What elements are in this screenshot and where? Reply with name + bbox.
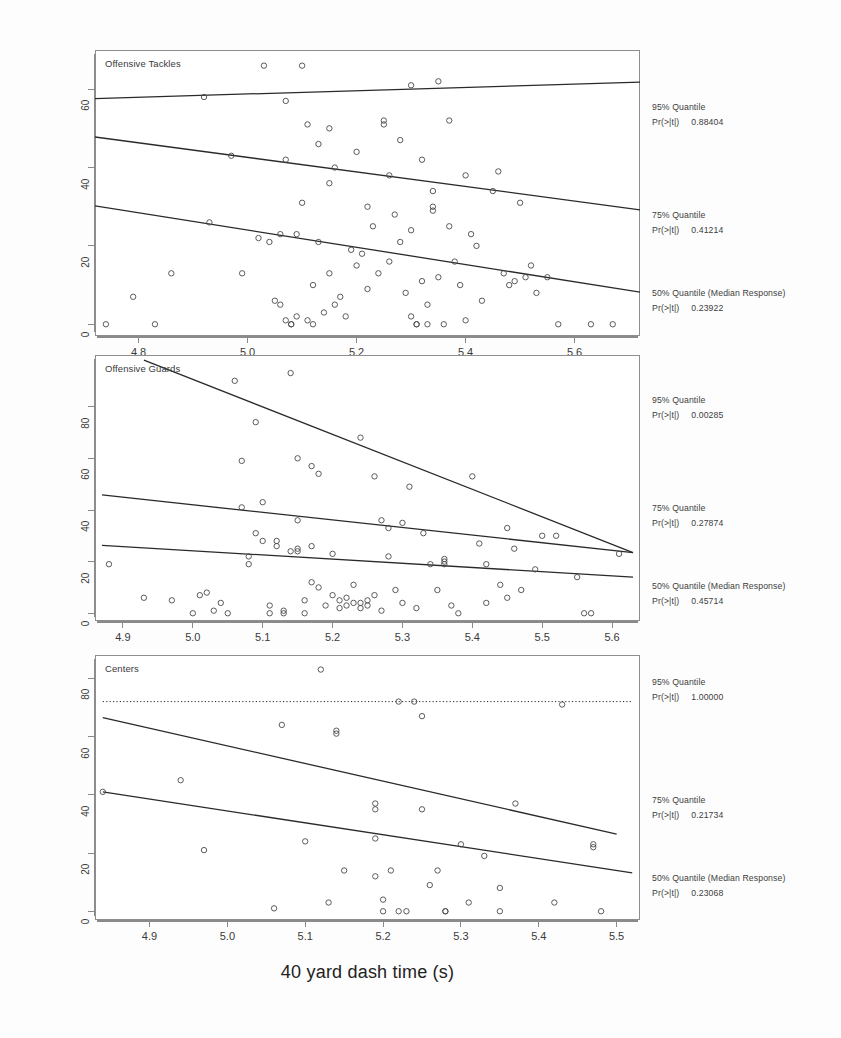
y-tick-label: 40 bbox=[81, 805, 91, 816]
scatter-point bbox=[327, 126, 332, 131]
scatter-point bbox=[344, 595, 349, 600]
scatter-point bbox=[260, 500, 265, 505]
scatter-point bbox=[388, 868, 393, 873]
scatter-point bbox=[425, 322, 430, 327]
quantile-annotation: 95% QuantilePr(>|t|)1.00000 bbox=[652, 677, 837, 702]
scatter-point bbox=[404, 909, 409, 914]
scatter-point bbox=[365, 204, 370, 209]
scatter-point bbox=[267, 611, 272, 616]
p-value-label: Pr(>|t|) bbox=[652, 518, 679, 528]
p-value-row: Pr(>|t|)0.88404 bbox=[652, 117, 837, 127]
scatter-point bbox=[272, 298, 277, 303]
scatter-point bbox=[279, 722, 284, 727]
y-tick-label: 60 bbox=[81, 100, 91, 111]
x-tick-mark bbox=[542, 621, 543, 628]
x-tick-mark bbox=[402, 621, 403, 628]
y-tick-label: 40 bbox=[81, 521, 91, 532]
scatter-point bbox=[365, 598, 370, 603]
x-tick-label: 5.5 bbox=[609, 930, 624, 942]
y-tick-label: 40 bbox=[81, 178, 91, 189]
p-value-label: Pr(>|t|) bbox=[652, 692, 679, 702]
scatter-point bbox=[457, 282, 462, 287]
scatter-point bbox=[283, 157, 288, 162]
scatter-point bbox=[372, 592, 377, 597]
quantile-label: 95% Quantile bbox=[652, 677, 837, 687]
y-tick-label: 20 bbox=[81, 256, 91, 267]
scatter-point bbox=[419, 278, 424, 283]
quantile-label: 75% Quantile bbox=[652, 795, 837, 805]
scatter-point bbox=[373, 874, 378, 879]
scatter-point bbox=[427, 882, 432, 887]
p-value-row: Pr(>|t|)0.00285 bbox=[652, 410, 837, 420]
x-tick-mark bbox=[538, 920, 539, 927]
scatter-point bbox=[253, 530, 258, 535]
y-tick-label: 60 bbox=[81, 469, 91, 480]
x-tick-label: 5.2 bbox=[325, 631, 340, 643]
panel-title: Offensive Tackles bbox=[105, 58, 181, 69]
x-tick-label: 5.0 bbox=[185, 631, 200, 643]
scatter-plot-canvas bbox=[95, 655, 640, 920]
scatter-point bbox=[278, 231, 283, 236]
y-tick-mark bbox=[88, 324, 95, 325]
scatter-point bbox=[498, 582, 503, 587]
quantile-annotation: 50% Quantile (Median Response)Pr(>|t|)0.… bbox=[652, 581, 837, 606]
scatter-point bbox=[338, 294, 343, 299]
scatter-point bbox=[435, 868, 440, 873]
quantile-fit-line bbox=[103, 718, 617, 834]
quantile-fit-line bbox=[95, 206, 640, 292]
scatter-point bbox=[474, 243, 479, 248]
scatter-point bbox=[327, 181, 332, 186]
scatter-point bbox=[337, 605, 342, 610]
scatter-point bbox=[359, 251, 364, 256]
scatter-point bbox=[463, 318, 468, 323]
scatter-point bbox=[201, 847, 206, 852]
x-tick-label: 5.3 bbox=[395, 631, 410, 643]
quantile-label: 50% Quantile (Median Response) bbox=[652, 288, 837, 298]
scatter-point bbox=[283, 318, 288, 323]
scatter-point bbox=[152, 322, 157, 327]
panel-title: Centers bbox=[105, 663, 139, 674]
scatter-point bbox=[428, 561, 433, 566]
x-tick-mark bbox=[332, 621, 333, 628]
x-tick-mark bbox=[383, 920, 384, 927]
scatter-point bbox=[419, 713, 424, 718]
x-tick-mark bbox=[122, 621, 123, 628]
quantile-label: 75% Quantile bbox=[652, 503, 837, 513]
p-value: 0.23068 bbox=[691, 888, 723, 898]
p-value: 0.41214 bbox=[691, 225, 723, 235]
x-tick-label: 5.5 bbox=[535, 631, 550, 643]
quantile-label: 50% Quantile (Median Response) bbox=[652, 873, 837, 883]
x-tick-mark bbox=[612, 621, 613, 628]
scatter-point bbox=[239, 271, 244, 276]
y-tick-mark bbox=[88, 853, 95, 854]
figure-root: Career Approximate Value Offensive Tackl… bbox=[0, 0, 841, 1038]
scatter-point bbox=[330, 592, 335, 597]
scatter-point bbox=[309, 463, 314, 468]
quantile-fit-line bbox=[95, 137, 640, 210]
scatter-point bbox=[610, 322, 615, 327]
scatter-point bbox=[466, 900, 471, 905]
scatter-point bbox=[468, 231, 473, 236]
scatter-point bbox=[430, 208, 435, 213]
p-value: 0.88404 bbox=[691, 117, 723, 127]
annotations-offensive-tackles: 95% QuantilePr(>|t|)0.8840475% QuantileP… bbox=[652, 50, 837, 336]
x-tick-label: 5.1 bbox=[298, 930, 313, 942]
y-tick-label: 20 bbox=[81, 864, 91, 875]
scatter-point bbox=[239, 505, 244, 510]
scatter-point bbox=[398, 137, 403, 142]
scatter-point bbox=[330, 551, 335, 556]
scatter-point bbox=[447, 118, 452, 123]
scatter-point bbox=[103, 322, 108, 327]
scatter-point bbox=[519, 587, 524, 592]
scatter-point bbox=[539, 533, 544, 538]
x-tick-mark bbox=[138, 336, 139, 343]
scatter-point bbox=[419, 157, 424, 162]
scatter-point bbox=[517, 200, 522, 205]
x-tick-label: 5.4 bbox=[531, 930, 546, 942]
x-axis-spine bbox=[97, 336, 638, 338]
scatter-point bbox=[190, 611, 195, 616]
panel-centers: Centers 020406080 4.95.05.15.25.35.45.5 bbox=[95, 655, 640, 920]
y-tick-label: 20 bbox=[81, 572, 91, 583]
scatter-point bbox=[419, 807, 424, 812]
scatter-point bbox=[341, 868, 346, 873]
